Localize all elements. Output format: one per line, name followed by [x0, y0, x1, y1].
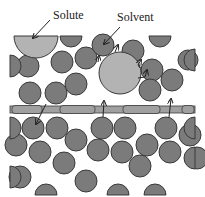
solvent-particle-partial	[107, 184, 129, 195]
diagram-canvas	[0, 0, 205, 197]
solvent-label: Solvent	[117, 10, 154, 25]
solvent-particle	[19, 82, 41, 104]
solute-label-arrow	[33, 20, 50, 38]
solvent-particle	[161, 69, 183, 91]
solute-label: Solute	[53, 8, 84, 23]
solvent-particle	[45, 82, 67, 104]
solvent-particle	[65, 129, 87, 151]
membrane-segment	[60, 106, 95, 114]
particles-layer	[5, 34, 205, 195]
membrane-segment	[182, 106, 194, 114]
membrane	[10, 106, 195, 114]
solvent-particle	[65, 73, 87, 95]
solvent-particle	[159, 141, 181, 163]
solvent-particle	[114, 117, 136, 139]
movement-arrow	[98, 56, 99, 62]
movement-arrow	[103, 101, 104, 117]
solute-particle	[99, 52, 141, 94]
solvent-particle	[29, 141, 51, 163]
solvent-particle	[139, 79, 161, 101]
solvent-particle	[136, 134, 158, 156]
solvent-particle	[129, 155, 151, 177]
solvent-particle-partial	[149, 36, 171, 47]
solvent-particle-partial	[144, 184, 166, 195]
solvent-particle	[46, 117, 68, 139]
solvent-particle-partial	[10, 55, 21, 77]
solvent-particle	[75, 170, 97, 192]
solvent-particle	[53, 152, 75, 174]
solvent-particle	[155, 117, 177, 139]
osmosis-diagram: Solute Solvent	[0, 0, 205, 197]
solute-particle	[14, 36, 58, 58]
movement-arrow	[115, 45, 118, 52]
solvent-particle-partial	[60, 36, 82, 47]
membrane-segment	[12, 106, 42, 114]
solvent-particle	[91, 117, 113, 139]
solvent-particle-partial	[35, 184, 57, 195]
solvent-particle	[87, 139, 109, 161]
solvent-particle	[111, 141, 133, 163]
solvent-particle	[141, 59, 163, 81]
solvent-particle	[22, 117, 44, 139]
solvent-particle	[51, 51, 73, 73]
membrane-segment	[123, 106, 160, 114]
solvent-particle-partial	[184, 147, 195, 169]
